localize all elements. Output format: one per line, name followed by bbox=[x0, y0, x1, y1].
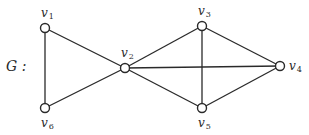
vertex-v4 bbox=[276, 62, 285, 71]
edge-v2-v5 bbox=[125, 68, 202, 108]
vertex-label-v4: v4 bbox=[289, 59, 302, 74]
graph-name-label: G : bbox=[6, 58, 26, 74]
vertex-label-v2: v2 bbox=[121, 46, 134, 61]
vertex-v1 bbox=[41, 24, 50, 33]
edges bbox=[45, 26, 280, 108]
vertex-v6 bbox=[41, 104, 50, 113]
vertex-v2 bbox=[121, 64, 130, 73]
vertex-label-v6: v6 bbox=[41, 116, 54, 131]
edge-v5-v4 bbox=[202, 66, 280, 108]
vertex-label-v3: v3 bbox=[198, 4, 211, 19]
vertex-label-v1: v1 bbox=[41, 6, 54, 21]
vertex-label-v5: v5 bbox=[198, 116, 211, 131]
edge-v1-v2 bbox=[45, 28, 125, 68]
edge-v3-v4 bbox=[202, 26, 280, 66]
vertex-v5 bbox=[198, 104, 207, 113]
vertex-v3 bbox=[198, 22, 207, 31]
edge-v2-v3 bbox=[125, 26, 202, 68]
graph-diagram: G : v1v2v3v4v5v6 bbox=[0, 0, 309, 135]
edge-v6-v2 bbox=[45, 68, 125, 108]
